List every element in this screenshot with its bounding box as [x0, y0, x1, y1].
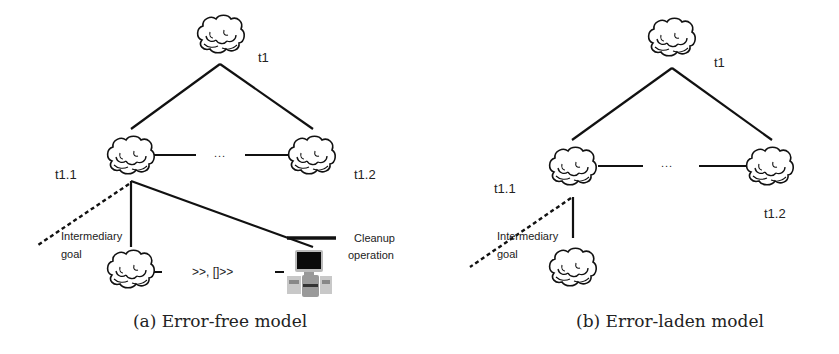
diagram-canvas: [0, 0, 839, 354]
edge-t1-to-t1.2: [220, 64, 313, 129]
node-label-t1.2: t1.2: [764, 206, 786, 221]
edge-t1-to-t1.1: [131, 64, 220, 129]
node-label-t1.1: t1.1: [55, 167, 77, 182]
panel-b: [470, 18, 793, 286]
cloud-icon: [108, 136, 155, 174]
edge-t1.1-to-cleanup: [131, 181, 313, 247]
cloud-icon: [108, 250, 155, 288]
computer-icon: [287, 250, 332, 297]
sequence-operator: >>, []>>: [192, 265, 233, 279]
panel-a: [38, 15, 336, 297]
cloud-icon: [550, 248, 597, 286]
intermediary-label: Intermediary: [497, 229, 558, 243]
edge-t1-to-t1.1: [572, 68, 672, 140]
intermediary-label: Intermediary: [61, 229, 122, 243]
edge-t1-to-t1.2: [672, 68, 772, 140]
ellipsis: ...: [661, 156, 673, 170]
cloud-icon: [747, 147, 794, 185]
intermediary-label-goal: goal: [497, 247, 518, 261]
cloud-icon: [289, 136, 336, 174]
cloud-icon: [649, 18, 696, 56]
cleanup-label-operation: operation: [348, 248, 394, 262]
intermediary-label-goal: goal: [61, 247, 82, 261]
node-label-t1: t1: [258, 50, 269, 65]
cloud-icon: [550, 147, 597, 185]
node-label-t1.2: t1.2: [354, 167, 376, 182]
caption-b: (b) Error-laden model: [576, 311, 764, 331]
node-label-t1: t1: [714, 55, 725, 70]
cleanup-label: Cleanup: [354, 231, 395, 245]
ellipsis: ...: [214, 146, 226, 160]
caption-a: (a) Error-free model: [133, 311, 307, 331]
cloud-icon: [198, 15, 245, 53]
node-label-t1.1: t1.1: [494, 181, 516, 196]
